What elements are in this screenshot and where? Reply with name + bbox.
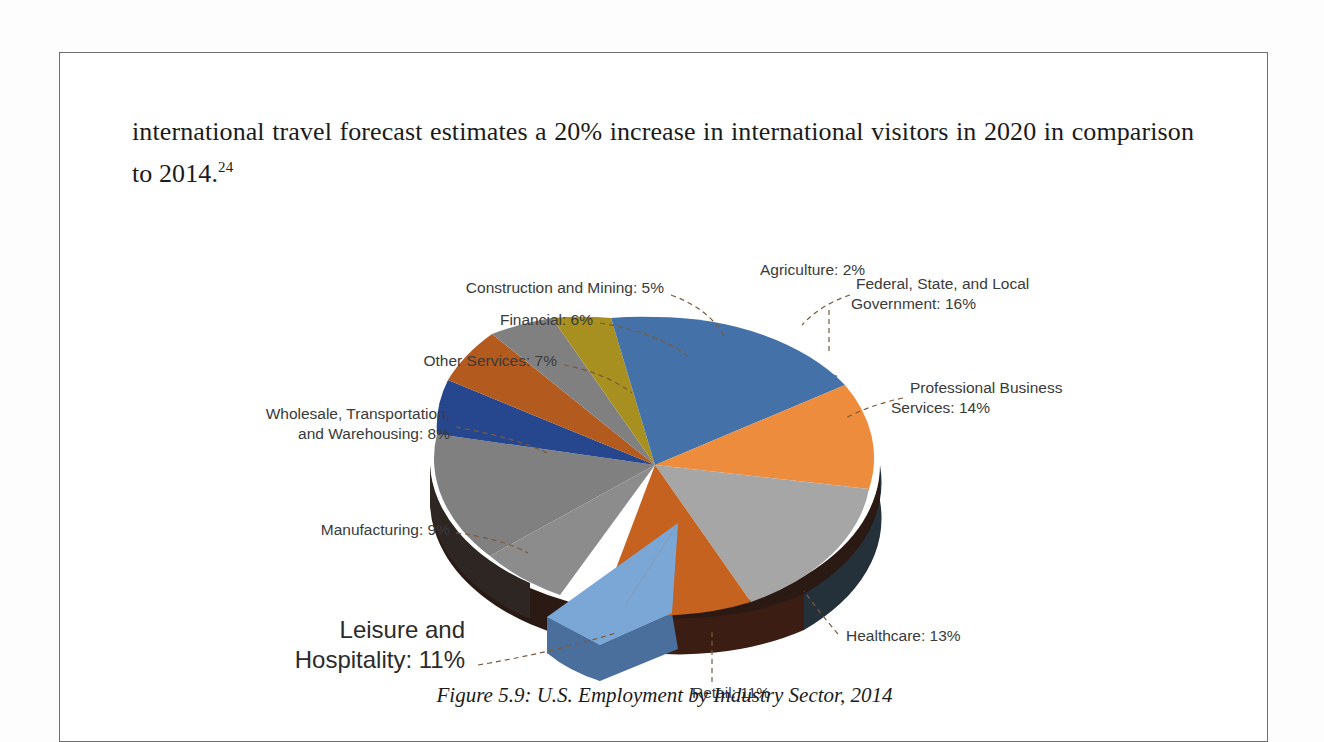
footnote-marker: 24: [218, 159, 233, 175]
figure-caption: Figure 5.9: U.S. Employment by Industry …: [60, 683, 1269, 708]
label-healthcare: Healthcare: 13%: [846, 627, 961, 644]
pie-chart-svg: Agriculture: 2% Construction and Mining:…: [60, 213, 1269, 703]
body-text-line1: international travel forecast estimates …: [132, 117, 1064, 146]
label-wholesale-transportation-line1: Wholesale, Transportation,: [266, 405, 450, 422]
label-leisure-line2: Hospitality: 11%: [295, 646, 465, 673]
label-manufacturing: Manufacturing: 9%: [321, 521, 450, 538]
label-professional-business-line1: Professional Business: [910, 379, 1063, 396]
label-government-line2: Government: 16%: [851, 295, 976, 312]
label-government-line1: Federal, State, and Local: [856, 275, 1029, 292]
pie-chart-figure: Agriculture: 2% Construction and Mining:…: [60, 213, 1269, 703]
label-leisure-line1: Leisure and: [340, 616, 465, 643]
label-wholesale-transportation-line2: and Warehousing: 8%: [298, 425, 450, 442]
label-professional-business-line2: Services: 14%: [891, 399, 990, 416]
leader-government: [802, 295, 850, 325]
label-construction-and-mining: Construction and Mining: 5%: [466, 279, 664, 296]
page-frame: international travel forecast estimates …: [59, 52, 1268, 742]
label-other-services: Other Services: 7%: [423, 352, 557, 369]
label-agriculture: Agriculture: 2%: [760, 261, 865, 278]
label-financial: Financial: 6%: [500, 311, 593, 328]
body-paragraph: international travel forecast estimates …: [132, 111, 1194, 195]
